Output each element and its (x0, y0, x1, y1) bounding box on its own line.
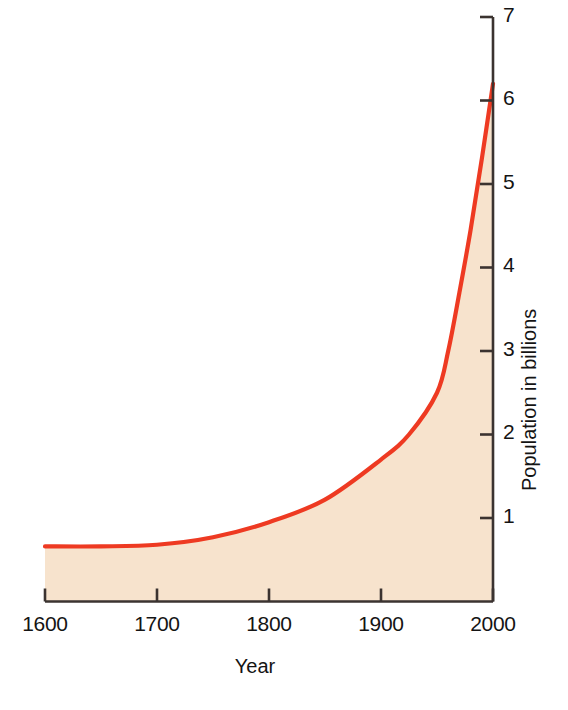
chart-canvas (0, 0, 568, 710)
y-tick-label-1: 1 (503, 504, 527, 528)
x-tick-label-1700: 1700 (122, 612, 192, 636)
x-tick-label-1900: 1900 (346, 612, 416, 636)
x-tick-label-2000: 2000 (458, 612, 528, 636)
y-axis-title: Population in billions (518, 309, 541, 491)
x-axis-title: Year (0, 655, 510, 678)
y-tick-label-7: 7 (503, 3, 527, 27)
x-tick-label-1600: 1600 (10, 612, 80, 636)
x-tick-label-1800: 1800 (234, 612, 304, 636)
y-tick-label-5: 5 (503, 170, 527, 194)
population-growth-figure: 1600 1700 1800 1900 2000 1 2 3 4 5 6 7 Y… (0, 0, 568, 710)
y-tick-label-4: 4 (503, 253, 527, 277)
y-tick-label-6: 6 (503, 86, 527, 110)
